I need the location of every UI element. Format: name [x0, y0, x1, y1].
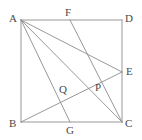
vertex-label-F: F — [65, 7, 71, 18]
vertex-label-G: G — [66, 125, 74, 136]
vertex-label-E: E — [126, 66, 133, 77]
vertex-label-Q: Q — [59, 84, 67, 95]
vertex-label-P: P — [95, 82, 101, 93]
cevian-A-to-E — [21, 20, 122, 72]
vertex-label-B: B — [9, 118, 16, 129]
geometry-figure: A B C D E F G P Q — [0, 0, 142, 140]
vertex-label-C: C — [125, 118, 132, 129]
cevian-F-to-C — [70, 20, 122, 122]
cevian-A-to-C — [21, 20, 122, 122]
cevian-B-to-E — [21, 72, 122, 122]
segment-group — [21, 20, 122, 122]
vertex-label-A: A — [9, 13, 17, 24]
vertex-label-D: D — [125, 13, 133, 24]
geometry-canvas — [0, 0, 142, 140]
cevian-A-to-G — [21, 20, 70, 122]
